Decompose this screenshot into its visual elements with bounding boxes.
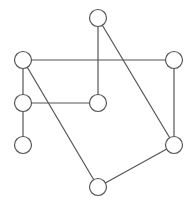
node-H bbox=[90, 179, 107, 196]
node-D bbox=[15, 95, 32, 112]
node-E bbox=[90, 95, 107, 112]
node-B bbox=[15, 52, 32, 69]
node-G bbox=[166, 137, 183, 154]
node-C bbox=[166, 52, 183, 69]
node-A bbox=[90, 10, 107, 27]
edge-A-G bbox=[98, 18, 174, 145]
graph-diagram bbox=[0, 0, 191, 205]
edge-G-H bbox=[98, 145, 174, 187]
edge-B-H bbox=[23, 60, 98, 187]
node-F bbox=[15, 137, 32, 154]
